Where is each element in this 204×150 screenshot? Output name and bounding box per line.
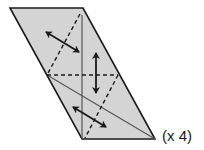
- repeat-count-label: (x 4): [162, 127, 192, 145]
